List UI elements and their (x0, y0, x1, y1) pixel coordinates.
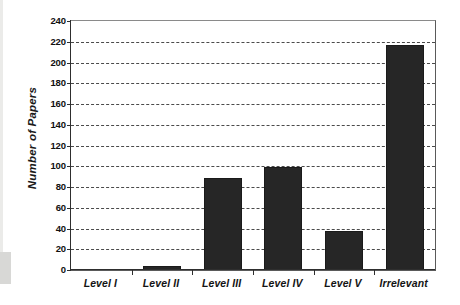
y-axis-tick-label: 180 (36, 77, 66, 88)
y-axis-tick-label: 40 (36, 222, 66, 233)
bar-slot (132, 21, 193, 270)
y-axis-tick-label: 80 (36, 181, 66, 192)
x-axis-tick-label: Level IV (262, 277, 303, 289)
bar-slot (71, 21, 132, 270)
y-axis-tick-mark (67, 270, 71, 271)
bar-slot (374, 21, 435, 270)
x-axis-tick-mark (192, 270, 193, 275)
x-axis-tick-label: Level III (202, 277, 241, 289)
y-axis-tick-label: 0 (36, 264, 66, 275)
y-axis-tick-label: 120 (36, 139, 66, 150)
x-axis-tick-mark (314, 270, 315, 275)
scan-artifact-left (0, 0, 3, 253)
x-axis-tick-mark (253, 270, 254, 275)
bar (264, 167, 302, 270)
bars-layer (71, 21, 435, 270)
plot-area (70, 20, 436, 271)
bar-slot (314, 21, 375, 270)
scan-artifact-corner (0, 252, 11, 284)
bar (386, 45, 424, 270)
x-axis-line (70, 269, 435, 270)
bar-chart: Number of Papers 02040608010012014016018… (0, 0, 460, 305)
bar (204, 178, 242, 270)
x-axis-tick-label: Level I (84, 277, 117, 289)
x-axis-tick-mark (132, 270, 133, 275)
y-axis-tick-label: 220 (36, 35, 66, 46)
x-axis-tick-label: Level V (324, 277, 361, 289)
y-axis-tick-label: 20 (36, 243, 66, 254)
x-axis-tick-label: Level II (143, 277, 179, 289)
y-axis-tick-label: 160 (36, 98, 66, 109)
bar-slot (192, 21, 253, 270)
bar (325, 231, 363, 270)
x-axis-tick-label: Irrelevant (380, 277, 428, 289)
y-axis-tick-labels: 020406080100120140160180200220240 (36, 14, 66, 276)
x-axis-tick-labels: Level ILevel IILevel IIILevel IVLevel VI… (70, 277, 434, 299)
y-axis-tick-label: 240 (36, 15, 66, 26)
x-axis-tick-mark (374, 270, 375, 275)
y-axis-tick-label: 140 (36, 118, 66, 129)
y-axis-tick-label: 60 (36, 201, 66, 212)
y-axis-tick-label: 200 (36, 56, 66, 67)
bar-slot (253, 21, 314, 270)
y-axis-tick-label: 100 (36, 160, 66, 171)
y-axis-line (70, 20, 71, 270)
